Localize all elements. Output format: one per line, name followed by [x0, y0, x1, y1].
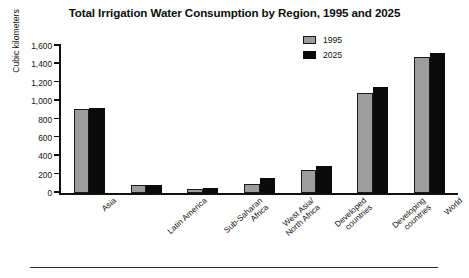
legend-label-2025: 2025 [323, 50, 342, 60]
y-axis-tick-label: 600 [0, 133, 52, 143]
bar-2025 [89, 108, 105, 193]
bar-2025 [373, 87, 389, 193]
y-axis-tick-label: 200 [0, 170, 52, 180]
x-axis-line [59, 193, 458, 195]
x-axis-category-label: Developedcountries [333, 196, 375, 236]
x-axis-category-label: Latin America [166, 196, 209, 236]
legend-label-1995: 1995 [323, 35, 342, 45]
bar-group [74, 46, 105, 193]
bar-2025 [430, 53, 446, 193]
legend-item-1995: 1995 [303, 33, 383, 46]
chart-title: Total Irrigation Water Consumption by Re… [0, 6, 469, 19]
x-axis-category-label: Asia [100, 196, 118, 214]
y-axis-tick-label: 1,000 [0, 96, 52, 106]
x-axis-category-label: West Asia/North Africa [277, 196, 321, 239]
bar-1995 [74, 109, 90, 193]
y-axis-tick-label: 800 [0, 115, 52, 125]
plot-area [60, 46, 457, 193]
y-axis-tick-labels: 1,6001,4001,2001,0008006004002000 [0, 46, 52, 193]
x-axis-category-label: Sub-SaharanAfrica [222, 196, 270, 242]
x-axis-category-label: World [442, 196, 464, 217]
legend-item-2025: 2025 [303, 48, 383, 61]
chart-legend: 1995 2025 [303, 33, 383, 63]
y-axis-tick-label: 400 [0, 151, 52, 161]
bar-group [357, 46, 388, 193]
bar-1995 [357, 93, 373, 193]
bar-1995 [301, 170, 317, 193]
bar-group [131, 46, 162, 193]
y-axis-tick-label: 1,600 [0, 41, 52, 51]
bar-group [244, 46, 275, 193]
x-axis-category-labels: AsiaLatin AmericaSub-SaharanAfricaWest A… [60, 196, 457, 266]
bar-1995 [244, 184, 260, 193]
bar-2025 [260, 178, 276, 193]
x-axis-category-label: Developingcountries [390, 196, 433, 237]
bottom-divider [30, 267, 438, 268]
bar-2025 [203, 188, 219, 193]
bar-group [187, 46, 218, 193]
bar-1995 [131, 185, 147, 193]
y-axis-tick-label: 1,400 [0, 59, 52, 69]
bar-group [414, 46, 445, 193]
bar-group [301, 46, 332, 193]
irrigation-water-consumption-chart: Total Irrigation Water Consumption by Re… [0, 0, 469, 278]
y-axis-tick-label: 0 [0, 188, 52, 198]
bar-1995 [414, 57, 430, 193]
gray-swatch-icon [303, 36, 316, 44]
y-axis-tick-label: 1,200 [0, 78, 52, 88]
black-swatch-icon [303, 51, 316, 59]
bar-2025 [146, 185, 162, 193]
bar-1995 [187, 189, 203, 193]
bar-2025 [316, 166, 332, 193]
